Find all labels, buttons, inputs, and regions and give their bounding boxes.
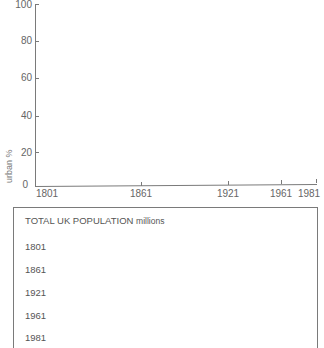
table-title-unit: millions bbox=[136, 216, 164, 226]
x-tick bbox=[228, 181, 229, 185]
y-tick-label: 40 bbox=[2, 111, 32, 121]
table-title: TOTAL UK POPULATION millions bbox=[25, 215, 164, 226]
y-tick bbox=[35, 116, 39, 117]
urban-percentage-chart: 100 80 60 40 20 0 urban % 1801 1861 1921… bbox=[0, 0, 324, 200]
y-tick bbox=[35, 152, 39, 153]
y-axis bbox=[35, 4, 36, 187]
x-tick-label: 1921 bbox=[217, 189, 239, 199]
y-tick bbox=[35, 41, 39, 42]
row-year: 1961 bbox=[25, 310, 46, 321]
row-year: 1801 bbox=[25, 241, 46, 252]
y-tick-label: 80 bbox=[2, 36, 32, 46]
table-row: 1921 bbox=[25, 287, 46, 298]
table-row: 1801 bbox=[25, 241, 46, 252]
y-axis-title: urban % bbox=[4, 149, 14, 183]
population-table: TOTAL UK POPULATION millions 1801 1861 1… bbox=[13, 207, 318, 348]
table-row: 1981 bbox=[25, 332, 46, 343]
y-tick bbox=[35, 4, 39, 5]
table-row: 1961 bbox=[25, 310, 46, 321]
x-tick-label: 1981 bbox=[298, 189, 320, 199]
x-tick bbox=[141, 182, 142, 186]
x-axis bbox=[35, 184, 317, 187]
x-tick-label: 1801 bbox=[36, 189, 58, 199]
x-tick-label: 1861 bbox=[130, 189, 152, 199]
x-tick bbox=[316, 179, 317, 183]
x-tick-label: 1961 bbox=[270, 189, 292, 199]
y-tick bbox=[35, 78, 39, 79]
row-year: 1921 bbox=[25, 287, 46, 298]
table-row: 1861 bbox=[25, 264, 46, 275]
y-tick-label: 100 bbox=[2, 0, 32, 10]
row-year: 1861 bbox=[25, 264, 46, 275]
y-tick-label: 60 bbox=[2, 73, 32, 83]
row-year: 1981 bbox=[25, 332, 46, 343]
table-title-text: TOTAL UK POPULATION bbox=[25, 215, 133, 226]
x-tick bbox=[281, 180, 282, 184]
